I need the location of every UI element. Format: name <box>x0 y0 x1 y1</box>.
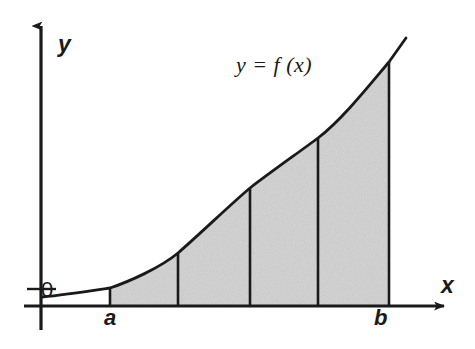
x-axis-label: x <box>441 272 454 299</box>
origin-label: 0 <box>41 277 53 303</box>
y-axis-label: y <box>58 31 71 58</box>
upper-bound-label: b <box>374 305 387 331</box>
curve-equation-label: y = f (x) <box>236 52 312 78</box>
lower-bound-label: a <box>104 305 116 331</box>
integral-area-figure: y x 0 a b y = f (x) <box>0 0 475 349</box>
